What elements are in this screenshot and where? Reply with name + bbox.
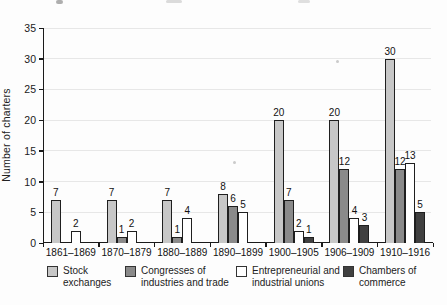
bar-slot: 2 <box>71 28 81 243</box>
bar <box>329 120 339 243</box>
bar-slot: 20 <box>274 28 284 243</box>
bar-slot: 2 <box>294 28 304 243</box>
y-tick-label: 25 <box>12 83 36 95</box>
bar <box>117 237 127 243</box>
bar-slot: 13 <box>405 28 415 243</box>
cropped-text-artifact <box>56 0 63 4</box>
bar-value-label: 7 <box>53 188 59 198</box>
x-category-label: 1890–1899 <box>210 247 266 258</box>
bar <box>51 200 61 243</box>
bar <box>304 237 314 243</box>
bar-value-label: 1 <box>306 225 312 235</box>
y-tick-label: 15 <box>12 145 36 157</box>
bar-value-label: 4 <box>352 206 358 216</box>
legend-swatch <box>343 266 354 277</box>
bar-value-label: 2 <box>73 219 79 229</box>
x-category-label: 1910–1916 <box>377 247 433 258</box>
bar <box>349 218 359 243</box>
bar <box>359 225 369 243</box>
bar <box>284 200 294 243</box>
bar-slot: 5 <box>238 28 248 243</box>
bar-value-label: 30 <box>385 47 396 57</box>
bar-slot: 3 <box>359 28 369 243</box>
y-axis-title: Number of charters <box>0 70 12 200</box>
bar <box>127 231 137 243</box>
y-tick-label: 10 <box>12 176 36 188</box>
bar <box>71 231 81 243</box>
bar-group-1900-1905: 20721 <box>266 28 322 243</box>
bar-value-label: 1 <box>174 225 180 235</box>
legend-swatch <box>125 266 136 277</box>
bar-value-label: 13 <box>405 151 416 161</box>
bar <box>172 237 182 243</box>
bar-slot: 7 <box>162 28 172 243</box>
bar-slot <box>137 28 147 243</box>
legend-label: Chambers ofcommerce <box>359 265 416 289</box>
bar-group-1906-1909: 201243 <box>322 28 378 243</box>
bar-slot <box>61 28 71 243</box>
bar-slot: 5 <box>415 28 425 243</box>
bar-value-label: 20 <box>273 108 284 118</box>
y-tick-label: 30 <box>12 53 36 65</box>
bar-slot: 1 <box>304 28 314 243</box>
bar-slot: 12 <box>395 28 405 243</box>
bar-value-label: 1 <box>119 225 125 235</box>
bar-slot: 1 <box>117 28 127 243</box>
bar <box>107 200 117 243</box>
bar <box>228 206 238 243</box>
bar-value-label: 5 <box>240 200 246 210</box>
bar-slot: 20 <box>329 28 339 243</box>
legend-swatch <box>47 266 58 277</box>
bar-slot: 1 <box>172 28 182 243</box>
x-category-label: 1906–1909 <box>322 247 378 258</box>
legend-label: Congresses ofindustries and trade <box>141 265 229 289</box>
bar-value-label: 5 <box>417 200 423 210</box>
bar-value-label: 20 <box>329 108 340 118</box>
x-category-label: 1880–1889 <box>154 247 210 258</box>
bar <box>405 163 415 243</box>
cropped-text-artifact <box>166 0 182 3</box>
bar <box>415 212 425 243</box>
bar-slot: 6 <box>228 28 238 243</box>
x-category-label: 1870–1879 <box>99 247 155 258</box>
bar <box>182 218 192 243</box>
bar-group-1910-1916: 3012135 <box>377 28 433 243</box>
bar <box>238 212 248 243</box>
bar-slot <box>192 28 202 243</box>
bar-value-label: 3 <box>362 213 368 223</box>
bar-value-label: 12 <box>339 157 350 167</box>
bar-value-label: 4 <box>184 206 190 216</box>
bar <box>395 169 405 243</box>
legend-item-3: Entrepreneurial andindustrial unions <box>236 265 340 289</box>
y-tick-label: 35 <box>12 22 36 34</box>
bar-value-label: 2 <box>296 219 302 229</box>
bar-slot: 30 <box>385 28 395 243</box>
bar-value-label: 7 <box>286 188 292 198</box>
bar-group-1890-1899: 865 <box>210 28 266 243</box>
bar <box>385 59 395 243</box>
legend-item-4: Chambers ofcommerce <box>343 265 416 289</box>
bar-group-1880-1889: 714 <box>154 28 210 243</box>
bar-slot: 4 <box>182 28 192 243</box>
bar-slot: 7 <box>51 28 61 243</box>
y-tick-label: 20 <box>12 114 36 126</box>
legend-label: Stockexchanges <box>63 265 111 289</box>
bar <box>162 200 172 243</box>
bar-value-label: 7 <box>164 188 170 198</box>
x-category-label: 1861–1869 <box>43 247 99 258</box>
bar-group-1861-1869: 72 <box>43 28 99 243</box>
bar-value-label: 6 <box>230 194 236 204</box>
legend-item-2: Congresses ofindustries and trade <box>125 265 229 289</box>
bar-value-label: 7 <box>109 188 115 198</box>
bar-slot: 12 <box>339 28 349 243</box>
bar <box>339 169 349 243</box>
bar-slot <box>81 28 91 243</box>
bar <box>294 231 304 243</box>
legend-item-1: Stockexchanges <box>47 265 111 289</box>
bar-slot: 7 <box>107 28 117 243</box>
bar-value-label: 2 <box>129 219 135 229</box>
x-category-label: 1900–1905 <box>266 247 322 258</box>
bar <box>218 194 228 243</box>
bar-slot: 7 <box>284 28 294 243</box>
bar-slot: 2 <box>127 28 137 243</box>
